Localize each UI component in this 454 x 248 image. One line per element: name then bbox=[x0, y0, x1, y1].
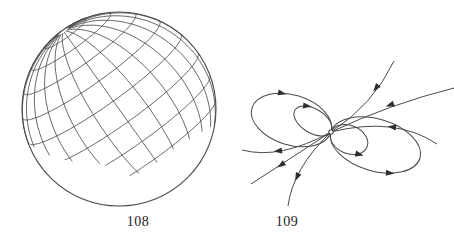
net-line bbox=[67, 29, 192, 160]
singular-point-dot bbox=[329, 130, 333, 134]
sphere-net-figure bbox=[22, 12, 216, 206]
stream-line bbox=[288, 132, 331, 206]
flow-arrowhead bbox=[273, 148, 282, 155]
net-line bbox=[69, 16, 215, 139]
net-line bbox=[62, 33, 155, 187]
net-line bbox=[60, 31, 62, 32]
stream-line bbox=[251, 132, 331, 184]
loop-stream-line bbox=[324, 107, 428, 183]
sphere-coordinate-net bbox=[22, 13, 215, 206]
flow-arrowhead bbox=[371, 83, 381, 93]
flow-arrowhead bbox=[386, 170, 395, 177]
flow-arrowhead bbox=[292, 172, 301, 182]
net-line bbox=[66, 31, 181, 169]
net-line bbox=[69, 20, 211, 144]
loop-stream-line bbox=[326, 119, 373, 160]
figure-109-label: 109 bbox=[259, 214, 315, 230]
figures-drawing-canvas bbox=[0, 0, 454, 248]
stream-line bbox=[242, 132, 331, 153]
figure-108-label: 108 bbox=[110, 214, 166, 230]
vector-field-figure bbox=[242, 61, 454, 206]
flow-arrowhead bbox=[303, 102, 312, 109]
loop-stream-line bbox=[245, 84, 339, 156]
net-line bbox=[64, 32, 168, 178]
stream-line bbox=[331, 126, 437, 144]
flow-arrowhead bbox=[385, 101, 395, 110]
net-line bbox=[27, 35, 118, 206]
textbook-figure-page: 108 109 bbox=[0, 0, 454, 248]
net-line bbox=[55, 34, 143, 195]
